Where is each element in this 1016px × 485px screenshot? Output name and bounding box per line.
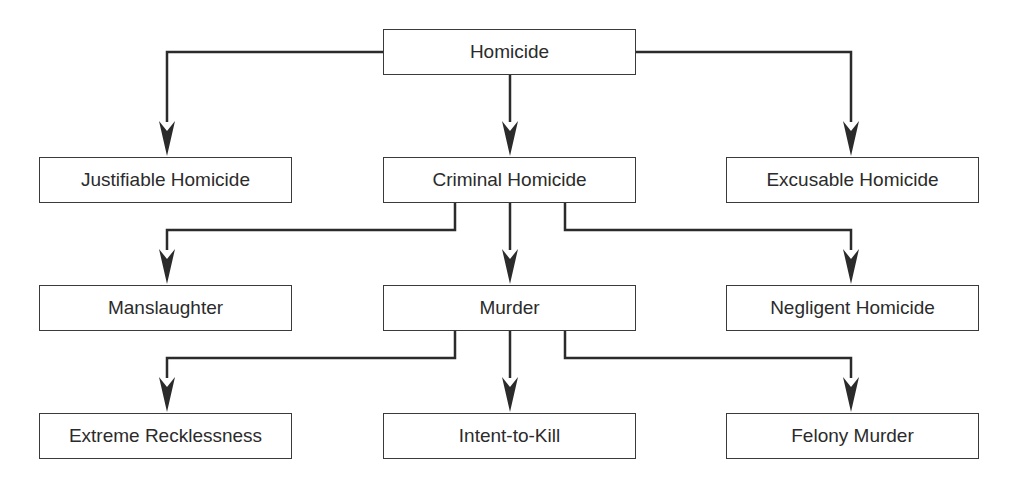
node-felony-murder: Felony Murder — [726, 413, 979, 459]
node-intent-to-kill: Intent-to-Kill — [383, 413, 636, 459]
node-homicide: Homicide — [383, 29, 636, 75]
arrowhead-icon — [502, 249, 518, 284]
edge-murder-felony — [565, 331, 851, 378]
edge-murder-extreme — [167, 331, 455, 378]
arrowhead-icon — [843, 377, 859, 412]
node-label: Extreme Recklessness — [69, 425, 262, 447]
node-excusable-homicide: Excusable Homicide — [726, 157, 979, 203]
node-label: Murder — [479, 297, 539, 319]
node-label: Justifiable Homicide — [81, 169, 250, 191]
node-label: Manslaughter — [108, 297, 223, 319]
node-label: Homicide — [470, 41, 549, 63]
arrowhead-icon — [502, 121, 518, 156]
node-label: Felony Murder — [791, 425, 914, 447]
node-label: Criminal Homicide — [432, 169, 586, 191]
homicide-classification-diagram: Homicide Justifiable Homicide Criminal H… — [0, 0, 1016, 485]
edge-criminal-manslaughter — [167, 203, 455, 250]
arrowhead-icon — [159, 249, 175, 284]
node-justifiable-homicide: Justifiable Homicide — [39, 157, 292, 203]
node-label: Intent-to-Kill — [459, 425, 560, 447]
edge-homicide-justifiable — [167, 52, 383, 122]
arrowhead-icon — [502, 377, 518, 412]
node-criminal-homicide: Criminal Homicide — [383, 157, 636, 203]
node-label: Negligent Homicide — [770, 297, 935, 319]
node-manslaughter: Manslaughter — [39, 285, 292, 331]
node-murder: Murder — [383, 285, 636, 331]
arrowhead-icon — [843, 121, 859, 156]
edge-criminal-negligent — [565, 203, 851, 250]
node-label: Excusable Homicide — [766, 169, 938, 191]
node-extreme-recklessness: Extreme Recklessness — [39, 413, 292, 459]
arrowhead-icon — [159, 121, 175, 156]
arrowhead-icon — [843, 249, 859, 284]
edge-homicide-excusable — [636, 52, 851, 122]
arrowhead-icon — [159, 377, 175, 412]
node-negligent-homicide: Negligent Homicide — [726, 285, 979, 331]
